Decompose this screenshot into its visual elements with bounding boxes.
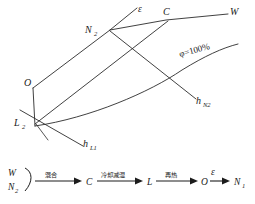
- label-n2-subscript: 2: [94, 30, 98, 37]
- o-to-l2-vertical-line: [33, 88, 35, 126]
- flow-source-bottom-label: N: [7, 182, 15, 192]
- flow-process-label-2: 冷却减湿: [101, 171, 125, 179]
- label-h-n2: h: [196, 95, 201, 106]
- flow-arrowhead-4: [222, 178, 230, 185]
- label-epsilon: ε: [138, 4, 142, 14]
- epsilon-ray-line: [110, 8, 137, 30]
- saturation-curve-phi-100: [35, 44, 238, 126]
- flow-node-l: L: [146, 177, 152, 187]
- label-l2-subscript: 2: [22, 123, 26, 130]
- label-h-l1-subscript: L1: [89, 144, 97, 151]
- flow-source-bottom-subscript: 2: [15, 187, 19, 194]
- flow-arrowhead-3: [190, 178, 198, 185]
- psychrometric-process-figure: N 2 ε C W O L 2 φ=100% h N2 h L1 W N 2 混…: [0, 0, 255, 204]
- flow-node-o: O: [201, 177, 208, 187]
- o-to-n2-line: [33, 30, 110, 88]
- l2-lower-tail-line: [36, 124, 48, 140]
- flow-final-process-label: ε: [211, 167, 215, 177]
- label-h-l1: h: [83, 138, 88, 149]
- flow-process-label-1: 混合: [45, 171, 57, 179]
- flow-process-label-3: 再热: [165, 171, 178, 179]
- label-o: O: [24, 77, 31, 88]
- flow-source-top-label: W: [8, 168, 17, 178]
- flow-arrowhead-2: [135, 178, 143, 185]
- flow-node-n1: N: [233, 177, 241, 187]
- label-h-n2-subscript: N2: [202, 101, 211, 108]
- flow-arrowhead-1: [74, 178, 82, 185]
- l2-to-hl1-line: [20, 110, 83, 146]
- label-n2: N: [84, 24, 93, 35]
- label-c: C: [163, 6, 170, 17]
- label-w: W: [230, 6, 240, 17]
- figure-canvas: N 2 ε C W O L 2 φ=100% h N2 h L1 W N 2 混…: [0, 0, 255, 204]
- flow-node-n1-subscript: 1: [242, 182, 245, 189]
- flow-source-brace: [25, 168, 31, 191]
- n2-to-hn2-line: [110, 31, 196, 99]
- label-l2: L: [13, 117, 20, 128]
- flow-node-c: C: [86, 177, 93, 187]
